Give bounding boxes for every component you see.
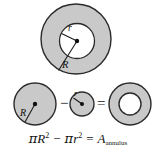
row-big-circle-label: R xyxy=(19,107,26,118)
formula-pi-2: π xyxy=(65,131,74,146)
top-annulus-diagram: r R xyxy=(0,0,156,86)
row-small-circle-center-dot xyxy=(80,102,84,106)
formula-subscript-annulus: annulus xyxy=(105,139,127,147)
top-center-dot xyxy=(75,39,79,43)
equals-operator: = xyxy=(97,96,105,111)
minus-operator: − xyxy=(60,96,68,111)
row-result-inner-circle xyxy=(119,93,141,115)
top-inner-radius-label: r xyxy=(68,23,72,33)
annulus-figure: r R R r − = πR2−πr2=Aannulus xyxy=(0,0,156,161)
formula-equals: = xyxy=(86,131,93,146)
top-outer-radius-label: R xyxy=(61,59,69,70)
formula-pi-1: π xyxy=(29,131,38,146)
formula-minus: − xyxy=(53,131,60,146)
equation-row-diagram: R r xyxy=(0,79,156,129)
formula-exponent-R: 2 xyxy=(45,131,49,140)
annulus-area-formula: πR2−πr2=Aannulus xyxy=(0,131,156,147)
row-big-circle-center-dot xyxy=(33,102,37,106)
formula-exponent-r: 2 xyxy=(78,131,82,140)
